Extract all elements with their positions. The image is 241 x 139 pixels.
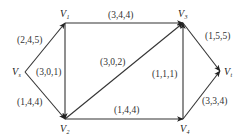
node-subscript: 1: [67, 14, 70, 20]
edge-v4-vt: [183, 71, 220, 119]
edge-vs-v1: [25, 23, 65, 72]
edge-label: (3,0,2): [100, 57, 125, 68]
node-subscript: 3: [184, 14, 188, 20]
node-subscript: 4: [187, 129, 190, 135]
node-subscript: 2: [67, 129, 70, 135]
edge-label: (1,5,5): [205, 31, 230, 42]
edge-label: (1,1,1): [152, 69, 177, 80]
edge-label: (2,4,5): [17, 35, 42, 46]
node-label-vt: Vt: [224, 66, 233, 78]
node-label-v2: V2: [60, 123, 70, 135]
node-label-v4: V4: [180, 123, 190, 135]
node-label-v3: V3: [178, 8, 188, 20]
node-label-vs: Vs: [12, 66, 22, 78]
edge-label: (1,4,4): [114, 105, 139, 116]
node-label-v1: V1: [60, 8, 70, 20]
edge-label: (3,4,4): [108, 10, 133, 21]
edge-vs-v2: [25, 72, 65, 119]
edge-label: (3,0,1): [36, 67, 61, 78]
flow-network-diagram: (2,4,5)(1,4,4)(3,0,1)(3,4,4)(3,0,2)(1,4,…: [0, 0, 241, 139]
edge-label: (1,4,4): [17, 97, 42, 108]
node-subscript: s: [19, 72, 22, 78]
edge-label: (3,3,4): [202, 96, 227, 107]
node-subscript: t: [231, 72, 233, 78]
